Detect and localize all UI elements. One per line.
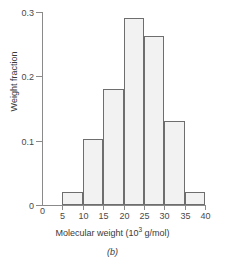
- y-axis-tick-label: 0.2: [21, 72, 34, 81]
- x-axis-tick-label: 35: [180, 212, 190, 221]
- x-axis-tick: 20: [124, 205, 125, 210]
- x-axis-tick: 40: [205, 205, 206, 210]
- figure-histogram: 00.10.20.3 0510152025303540 Weight fract…: [0, 0, 225, 263]
- histogram-bar: [83, 139, 103, 205]
- x-axis-tick: 25: [144, 205, 145, 210]
- x-axis-tick-label: 15: [98, 212, 108, 221]
- x-axis-tick: 35: [185, 205, 186, 210]
- x-axis-title-main: Molecular weight (10: [55, 228, 138, 238]
- histogram-bar: [103, 89, 123, 205]
- x-axis-title: Molecular weight (103 g/mol): [0, 228, 225, 239]
- y-axis-tick: 0.1: [36, 141, 42, 142]
- y-axis-tick-label: 0.3: [21, 8, 34, 17]
- histogram-bar: [164, 121, 184, 205]
- histogram-bar: [144, 36, 164, 205]
- x-axis-tick: 5: [62, 205, 63, 210]
- x-axis-tick-label: 40: [200, 212, 210, 221]
- y-axis-tick-label: 0: [29, 201, 34, 210]
- y-axis-title: Weight fraction: [10, 32, 19, 132]
- histogram-bar: [62, 192, 82, 205]
- x-axis-tick-label: 20: [119, 212, 129, 221]
- y-axis-tick: 0.3: [36, 12, 42, 13]
- histogram-bar: [124, 18, 144, 205]
- y-axis-tick: 0.2: [36, 76, 42, 77]
- x-axis-tick-label: 25: [139, 212, 149, 221]
- x-axis-tick: 15: [103, 205, 104, 210]
- y-axis-line: [42, 12, 43, 206]
- x-axis-tick-label: 30: [159, 212, 169, 221]
- x-axis-tick-label: 10: [78, 212, 88, 221]
- x-axis-tick: 30: [164, 205, 165, 210]
- x-axis-tick-label: 0: [40, 207, 45, 216]
- plot-area: 00.10.20.3 0510152025303540 Weight fract…: [0, 0, 225, 263]
- y-axis-tick-label: 0.1: [21, 137, 34, 146]
- figure-caption: (b): [0, 247, 225, 257]
- x-axis-title-tail: g/mol): [142, 228, 170, 238]
- histogram-bar: [185, 192, 205, 205]
- x-axis-tick: 10: [83, 205, 84, 210]
- x-axis-tick-label: 5: [60, 212, 65, 221]
